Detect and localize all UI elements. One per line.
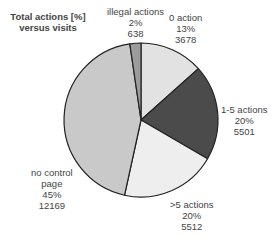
- label-name: illegal actions: [107, 6, 164, 17]
- label-name: 1-5 actions: [221, 104, 267, 115]
- label-pct: 45%: [31, 189, 73, 200]
- label-name: >5 actions: [170, 199, 214, 210]
- label-count: 5512: [170, 221, 214, 232]
- label-pct: 13%: [169, 23, 202, 34]
- label-pct: 20%: [170, 210, 214, 221]
- label-0-action: 0 action 13% 3678: [169, 12, 202, 45]
- label-name-2: page: [31, 178, 73, 189]
- label-no-control-page: no control page 45% 12169: [31, 167, 73, 211]
- label-1-5-actions: 1-5 actions 20% 5501: [221, 104, 267, 137]
- pie-slice-no-control-page: [64, 44, 141, 195]
- label-pct: 2%: [107, 17, 164, 28]
- label-name: no control: [31, 167, 73, 178]
- label-gt5-actions: >5 actions 20% 5512: [170, 199, 214, 232]
- label-name: 0 action: [169, 12, 202, 23]
- label-pct: 20%: [221, 115, 267, 126]
- label-count: 5501: [221, 126, 267, 137]
- label-count: 12169: [31, 200, 73, 211]
- label-count: 638: [107, 28, 164, 39]
- label-illegal-actions: illegal actions 2% 638: [107, 6, 164, 39]
- label-count: 3678: [169, 34, 202, 45]
